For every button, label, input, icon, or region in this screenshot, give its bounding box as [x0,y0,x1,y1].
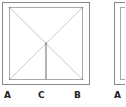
panel-2 [115,3,126,85]
inner-square [121,8,126,80]
label-a: A [4,91,11,100]
corner-point-tl [9,7,11,9]
diagram-canvas [0,0,125,107]
center-point [45,43,47,45]
label-c: C [38,91,45,100]
label-b: B [74,91,81,100]
panel-1 [3,3,90,85]
corner-point-tr [82,7,84,9]
corner-point-br [82,79,84,81]
corner-point-bl [9,79,11,81]
outer-box [115,3,126,85]
label-a-2: A [114,91,121,100]
